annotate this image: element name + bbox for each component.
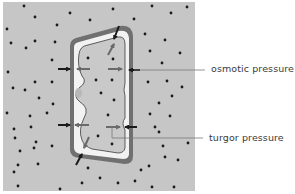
turgor-pressure-label: turgor pressure [209, 132, 284, 143]
vacuole [76, 37, 125, 153]
osmotic-pressure-label: osmotic pressure [211, 63, 294, 74]
nucleus [75, 88, 82, 98]
plant-cell-diagram [0, 0, 295, 194]
